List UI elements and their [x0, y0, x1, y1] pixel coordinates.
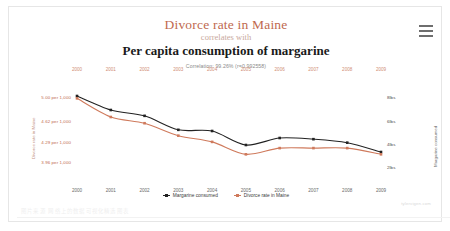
data-point[interactable]: [109, 109, 112, 112]
x-tick-bottom-2009: 2009: [369, 188, 393, 193]
legend-label-divorce: Divorce rate in Maine: [244, 193, 289, 198]
plot-area: [17, 75, 435, 187]
data-point[interactable]: [346, 147, 349, 150]
x-tick-top-2002: 2002: [133, 67, 157, 72]
x-tick-top-2009: 2009: [369, 67, 393, 72]
y-tick-left: 5.00 per 1,000: [23, 95, 71, 100]
y-axis-title-right: Margarine consumed: [433, 126, 438, 167]
x-tick-top-2003: 2003: [166, 67, 190, 72]
data-point[interactable]: [346, 141, 349, 144]
legend-marker-icon-divorce: [234, 194, 241, 198]
data-point[interactable]: [245, 153, 248, 156]
x-tick-bottom-2001: 2001: [99, 188, 123, 193]
chart-card: Divorce rate in Maine correlates with Pe…: [8, 6, 442, 222]
data-point[interactable]: [380, 151, 383, 154]
data-point[interactable]: [177, 134, 180, 137]
data-point[interactable]: [143, 115, 146, 118]
data-point[interactable]: [312, 138, 315, 141]
x-tick-bottom-2006: 2006: [268, 188, 292, 193]
x-tick-top-2005: 2005: [234, 67, 258, 72]
data-point[interactable]: [245, 144, 248, 147]
x-tick-bottom-2008: 2008: [335, 188, 359, 193]
x-tick-top-2001: 2001: [99, 67, 123, 72]
y-tick-left: 3.96 per 1,000: [23, 160, 71, 165]
data-point[interactable]: [143, 122, 146, 125]
chart-title-primary: Divorce rate in Maine: [9, 17, 443, 32]
y-tick-right: 2lbs: [387, 165, 429, 170]
chart-legend: Margarine consumed Divorce rate in Maine: [9, 193, 443, 198]
data-point[interactable]: [278, 147, 281, 150]
x-tick-bottom-2007: 2007: [301, 188, 325, 193]
y-axis-title-left: Divorce rate in Maine: [31, 118, 36, 159]
data-point[interactable]: [76, 95, 79, 98]
attribution-label: tylervigen.com: [401, 201, 431, 206]
series-layer: [76, 95, 383, 156]
data-point[interactable]: [380, 153, 383, 156]
data-point[interactable]: [312, 147, 315, 150]
data-point[interactable]: [278, 137, 281, 140]
x-tick-bottom-2003: 2003: [166, 188, 190, 193]
y-tick-right: 8lbs: [387, 95, 429, 100]
data-point[interactable]: [211, 141, 214, 144]
data-point[interactable]: [109, 116, 112, 119]
x-tick-bottom-2002: 2002: [133, 188, 157, 193]
legend-item-margarine[interactable]: Margarine consumed: [163, 193, 218, 198]
x-tick-top-2006: 2006: [268, 67, 292, 72]
legend-marker-icon-margarine: [163, 194, 170, 198]
y-tick-right: 6lbs: [387, 119, 429, 124]
y-tick-right: 4lbs: [387, 142, 429, 147]
x-tick-bottom-2000: 2000: [65, 188, 89, 193]
data-point[interactable]: [76, 97, 79, 100]
chart-title-secondary: Per capita consumption of margarine: [9, 43, 443, 59]
footer-divider: [17, 217, 450, 218]
x-tick-bottom-2004: 2004: [200, 188, 224, 193]
chart-screenshot: Divorce rate in Maine correlates with Pe…: [0, 0, 450, 231]
watermark-label: 图片来源 网络上的数据可视化精选图表: [21, 207, 129, 215]
legend-label-margarine: Margarine consumed: [173, 193, 218, 198]
data-point[interactable]: [211, 130, 214, 133]
x-tick-top-2007: 2007: [301, 67, 325, 72]
x-tick-top-2004: 2004: [200, 67, 224, 72]
series-line-divorce-rate-in-maine: [77, 98, 381, 154]
x-tick-bottom-2005: 2005: [234, 188, 258, 193]
legend-item-divorce[interactable]: Divorce rate in Maine: [234, 193, 289, 198]
series-line-margarine-consumed: [77, 96, 381, 152]
chart-title-connector: correlates with: [9, 32, 443, 43]
chart-svg: [17, 75, 435, 187]
data-point[interactable]: [177, 129, 180, 132]
chart-title-block: Divorce rate in Maine correlates with Pe…: [9, 17, 443, 69]
x-tick-top-2000: 2000: [65, 67, 89, 72]
x-tick-top-2008: 2008: [335, 67, 359, 72]
